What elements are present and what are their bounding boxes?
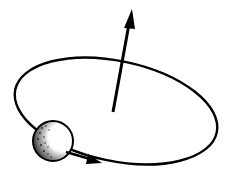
orbiting-body-icon [33, 121, 73, 161]
diagram-canvas: orbit-angular-momentum [0, 0, 229, 172]
orbit-diagram [0, 0, 229, 172]
